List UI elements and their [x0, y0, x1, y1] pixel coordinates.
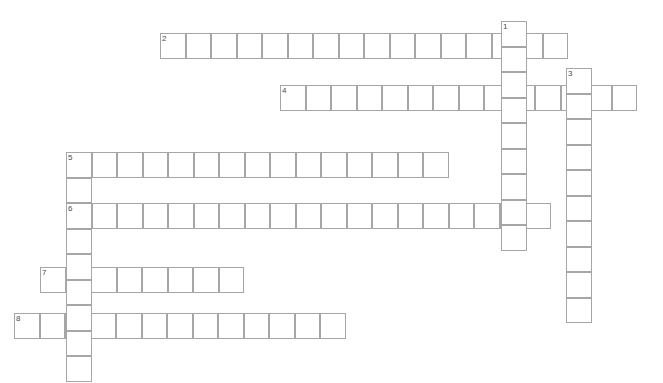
grid-cell[interactable] [320, 313, 346, 339]
grid-cell[interactable] [566, 272, 592, 298]
grid-cell[interactable] [295, 313, 321, 339]
grid-cell[interactable]: 4 [280, 85, 306, 111]
grid-cell[interactable] [92, 152, 118, 178]
grid-cell[interactable] [66, 305, 92, 331]
grid-cell[interactable] [288, 33, 314, 59]
grid-cell[interactable] [219, 152, 245, 178]
grid-cell[interactable] [566, 196, 592, 222]
grid-cell[interactable] [167, 313, 193, 339]
grid-cell[interactable] [357, 85, 383, 111]
grid-cell[interactable] [313, 33, 339, 59]
grid-cell[interactable] [269, 313, 295, 339]
grid-cell[interactable] [347, 203, 373, 229]
grid-cell[interactable]: 8 [14, 313, 40, 339]
grid-cell[interactable] [116, 313, 142, 339]
grid-cell[interactable] [347, 152, 373, 178]
grid-cell[interactable]: 7 [40, 267, 66, 293]
grid-cell[interactable] [66, 229, 92, 255]
grid-cell[interactable]: 3 [566, 68, 592, 94]
grid-cell[interactable] [566, 145, 592, 171]
grid-cell[interactable] [331, 85, 357, 111]
grid-cell[interactable] [408, 85, 434, 111]
grid-cell[interactable] [398, 152, 424, 178]
grid-cell[interactable] [566, 170, 592, 196]
grid-cell[interactable] [218, 313, 244, 339]
grid-cell[interactable] [193, 313, 219, 339]
grid-cell[interactable] [501, 123, 527, 149]
grid-cell[interactable] [474, 203, 500, 229]
grid-cell[interactable]: 6 [66, 203, 92, 229]
grid-cell[interactable] [566, 94, 592, 120]
grid-cell[interactable] [449, 203, 475, 229]
grid-cell[interactable] [543, 33, 569, 59]
grid-cell[interactable] [168, 152, 194, 178]
grid-cell[interactable] [466, 33, 492, 59]
grid-cell[interactable] [245, 203, 271, 229]
grid-cell[interactable] [612, 85, 638, 111]
grid-cell[interactable] [92, 203, 118, 229]
grid-cell[interactable] [501, 225, 527, 251]
grid-cell[interactable] [237, 33, 263, 59]
grid-cell[interactable] [321, 203, 347, 229]
grid-cell[interactable] [186, 33, 212, 59]
grid-cell[interactable] [433, 85, 459, 111]
grid-cell[interactable] [211, 33, 237, 59]
grid-cell[interactable] [168, 203, 194, 229]
grid-cell[interactable]: 5 [66, 152, 92, 178]
grid-cell[interactable] [193, 267, 219, 293]
grid-cell[interactable] [566, 298, 592, 324]
grid-cell[interactable] [270, 152, 296, 178]
grid-cell[interactable] [566, 119, 592, 145]
grid-cell[interactable] [117, 203, 143, 229]
grid-cell[interactable] [143, 152, 169, 178]
grid-cell[interactable] [219, 267, 245, 293]
grid-cell[interactable] [66, 178, 92, 204]
grid-cell[interactable] [117, 152, 143, 178]
grid-cell[interactable] [66, 356, 92, 382]
grid-cell[interactable] [168, 267, 194, 293]
crossword-grid[interactable]: 24567813 [0, 0, 663, 383]
grid-cell[interactable] [398, 203, 424, 229]
grid-cell[interactable] [245, 152, 271, 178]
grid-cell[interactable] [566, 221, 592, 247]
grid-cell[interactable] [219, 203, 245, 229]
grid-cell[interactable] [339, 33, 365, 59]
grid-cell[interactable] [66, 280, 92, 306]
grid-cell[interactable] [525, 203, 551, 229]
grid-cell[interactable] [244, 313, 270, 339]
grid-cell[interactable] [566, 247, 592, 273]
grid-cell[interactable] [306, 85, 332, 111]
grid-cell[interactable] [143, 203, 169, 229]
grid-cell[interactable] [441, 33, 467, 59]
grid-cell[interactable] [364, 33, 390, 59]
grid-cell[interactable] [40, 313, 66, 339]
grid-cell[interactable] [501, 149, 527, 175]
grid-cell[interactable] [382, 85, 408, 111]
grid-cell[interactable] [91, 267, 117, 293]
grid-cell[interactable] [501, 98, 527, 124]
grid-cell[interactable]: 2 [160, 33, 186, 59]
grid-cell[interactable] [390, 33, 416, 59]
grid-cell[interactable] [459, 85, 485, 111]
grid-cell[interactable] [142, 267, 168, 293]
grid-cell[interactable] [66, 254, 92, 280]
grid-cell[interactable] [501, 47, 527, 73]
grid-cell[interactable] [142, 313, 168, 339]
grid-cell[interactable] [296, 203, 322, 229]
grid-cell[interactable] [321, 152, 347, 178]
grid-cell[interactable] [270, 203, 296, 229]
grid-cell[interactable] [501, 72, 527, 98]
grid-cell[interactable] [117, 267, 143, 293]
grid-cell[interactable]: 1 [501, 21, 527, 47]
grid-cell[interactable] [194, 152, 220, 178]
grid-cell[interactable] [501, 200, 527, 226]
grid-cell[interactable] [66, 331, 92, 357]
grid-cell[interactable] [91, 313, 117, 339]
grid-cell[interactable] [296, 152, 322, 178]
grid-cell[interactable] [415, 33, 441, 59]
grid-cell[interactable] [372, 203, 398, 229]
grid-cell[interactable] [372, 152, 398, 178]
grid-cell[interactable] [535, 85, 561, 111]
grid-cell[interactable] [423, 203, 449, 229]
grid-cell[interactable] [423, 152, 449, 178]
